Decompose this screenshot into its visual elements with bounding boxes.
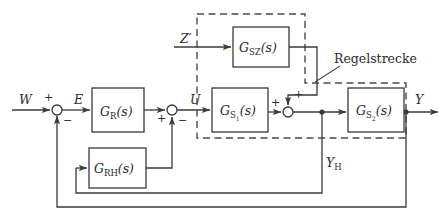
sign-error-junction-minus: −	[63, 114, 72, 127]
sign-aux-junction-plus: +	[157, 112, 166, 125]
aux-junction[interactable]	[167, 105, 177, 115]
control-block-diagram: GR(s) GRH(s) GSZ(s) GS1(s) GS2(s) W E U …	[0, 0, 445, 220]
signal-label-aux-output: YH	[326, 155, 342, 172]
signal-label-error: E	[73, 92, 83, 107]
plant-annotation-leader-line	[315, 66, 340, 82]
signal-label-output: Y	[415, 92, 425, 107]
block-label-controller: GR(s)	[100, 104, 133, 121]
disturbance-junction[interactable]	[283, 107, 293, 117]
sign-disturbance-junction-plus-top: +	[294, 88, 303, 101]
plant-annotation-label: Regelstrecke	[334, 51, 417, 66]
sign-aux-junction-minus: −	[178, 114, 187, 127]
signal-label-control: U	[190, 92, 201, 107]
sign-disturbance-junction-plus-left: +	[271, 96, 280, 109]
signal-label-disturbance: Z′	[179, 31, 192, 46]
error-junction[interactable]	[52, 105, 62, 115]
signal-label-reference: W	[19, 92, 33, 107]
sign-error-junction-plus: +	[44, 91, 53, 104]
diagram-canvas: GR(s) GRH(s) GSZ(s) GS1(s) GS2(s) W E U …	[0, 0, 445, 220]
